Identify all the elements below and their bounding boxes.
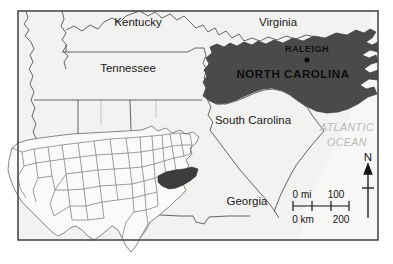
capital-dot-icon <box>304 57 309 62</box>
state-label-virginia: Virginia <box>259 16 298 28</box>
scale-miles-value-label: 100 <box>328 189 345 200</box>
scale-miles-unit-label: 0 mi <box>293 189 312 200</box>
capital-label-raleigh: RALEIGH <box>285 44 329 54</box>
state-label-north-carolina: NORTH CAROLINA <box>236 68 349 80</box>
state-label-georgia: Georgia <box>227 195 269 207</box>
scale-km-value-label: 200 <box>333 214 350 225</box>
north-arrow-label: N <box>364 151 372 163</box>
state-label-south-carolina: South Carolina <box>215 114 292 126</box>
ocean-label-line1: ATLANTIC <box>319 121 374 133</box>
map-canvas: Kentucky Tennessee Virginia South Caroli… <box>0 0 393 264</box>
scale-km-unit-label: 0 km <box>292 214 314 225</box>
ocean-label-line2: OCEAN <box>327 136 367 148</box>
state-label-kentucky: Kentucky <box>114 16 162 28</box>
locator-map: Kentucky Tennessee Virginia South Caroli… <box>0 0 393 264</box>
state-label-tennessee: Tennessee <box>100 62 156 74</box>
